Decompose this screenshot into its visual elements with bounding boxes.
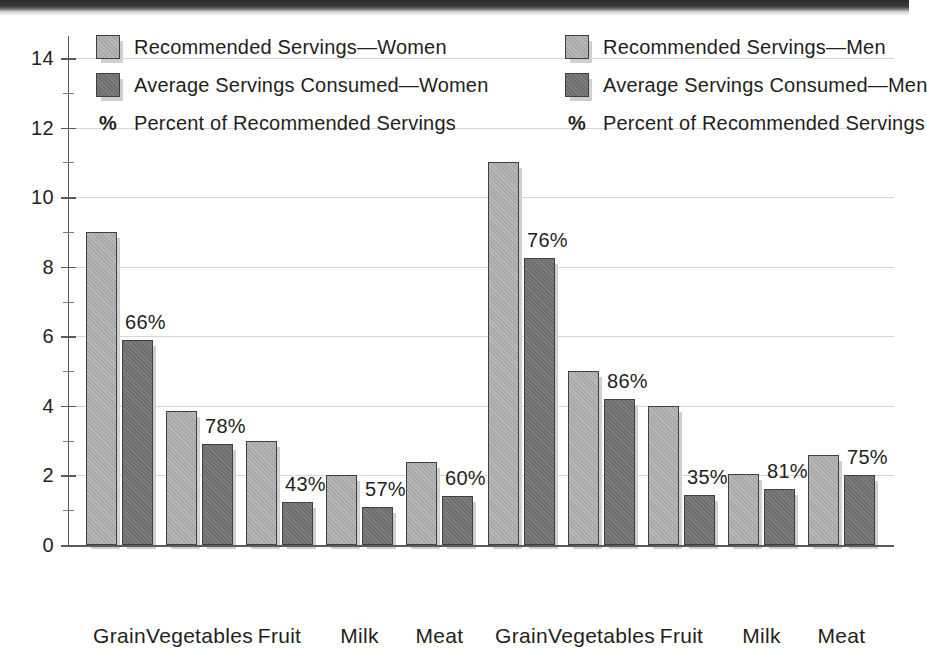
bar-men-fruit-consumed [684,495,715,545]
percent-symbol-icon: % [96,112,120,135]
percent-data-label: 66% [125,311,166,334]
legend-swatch-consumed-icon [565,73,589,97]
percent-data-label: 86% [607,370,648,393]
x-axis-category-label: Meat [818,624,866,648]
legend-label: Average Servings Consumed—Men [603,74,927,97]
legend-item-left-1: Recommended Servings—Women [96,28,489,66]
bar-women-vegetables-recommended [166,411,197,545]
y-axis-label: 8 [42,255,54,278]
x-axis-category-label: Vegetables [548,624,655,648]
x-axis-category-label: Meat [416,624,464,648]
bar-women-milk-recommended [326,475,357,545]
legend-label: Recommended Servings—Men [603,36,886,59]
x-axis-line [68,545,894,547]
y-axis-tick [61,267,76,269]
x-axis-category-label: Fruit [258,624,302,648]
legend-item-left-3: %Percent of Recommended Servings [96,104,489,142]
legend-label: Percent of Recommended Servings [134,112,456,135]
legend-item-right-2: Average Servings Consumed—Men [565,66,927,104]
bar-women-fruit-recommended [246,441,277,545]
legend-swatch-recommended-icon [565,35,589,59]
y-axis-tick [61,128,76,130]
legend-label: Recommended Servings—Women [134,36,447,59]
bar-women-fruit-consumed [282,502,313,545]
x-axis-category-label: Grain [495,624,548,648]
y-axis-minor-tick [63,510,74,511]
y-axis-minor-tick [63,232,74,233]
y-axis-tick [61,336,76,338]
y-axis-label: 10 [31,186,54,209]
percent-data-label: 81% [767,460,808,483]
y-axis-minor-tick [63,441,74,442]
legend-swatch-recommended-icon [96,35,120,59]
y-axis-minor-tick [63,162,74,163]
y-axis-minor-tick [63,302,74,303]
y-axis-minor-tick [63,371,74,372]
legend-label: Percent of Recommended Servings [603,112,925,135]
legend-men: Recommended Servings—MenAverage Servings… [565,28,927,142]
bar-men-vegetables-recommended [568,371,599,545]
bar-men-grain-recommended [488,162,519,545]
gridline [68,336,894,337]
y-axis-tick [61,58,76,60]
legend-swatch-consumed-icon [96,73,120,97]
bar-women-meat-recommended [406,462,437,545]
y-axis-tick [61,545,76,547]
bar-men-meat-consumed [844,475,875,545]
legend-item-right-1: Recommended Servings—Men [565,28,927,66]
y-axis-label: 6 [42,325,54,348]
percent-data-label: 57% [365,478,406,501]
percent-data-label: 35% [687,466,728,489]
bar-women-meat-consumed [442,496,473,545]
legend-item-right-3: %Percent of Recommended Servings [565,104,927,142]
percent-data-label: 78% [205,415,246,438]
percent-data-label: 76% [527,229,568,252]
y-axis-label: 12 [31,116,54,139]
x-axis-category-label: Milk [742,624,781,648]
bar-men-grain-consumed [524,258,555,545]
legend-label: Average Servings Consumed—Women [134,74,489,97]
bar-men-meat-recommended [808,455,839,545]
y-axis-label: 4 [42,394,54,417]
x-axis-category-label: Milk [340,624,379,648]
legend-women: Recommended Servings—WomenAverage Servin… [96,28,489,142]
bar-women-milk-consumed [362,507,393,545]
percent-data-label: 75% [847,446,888,469]
y-axis-tick [61,475,76,477]
bar-women-grain-consumed [122,340,153,545]
y-axis-label: 2 [42,464,54,487]
bar-men-milk-recommended [728,474,759,545]
y-axis-label: 14 [31,47,54,70]
x-axis-category-label: Grain [93,624,146,648]
bar-men-fruit-recommended [648,406,679,545]
y-axis-minor-tick [63,93,74,94]
y-axis-label: 0 [42,534,54,557]
bar-men-milk-consumed [764,489,795,545]
bar-men-vegetables-consumed [604,399,635,545]
gridline [68,197,894,198]
percent-symbol-icon: % [565,112,589,135]
percent-data-label: 43% [285,473,326,496]
x-axis-category-label: Fruit [660,624,704,648]
y-axis-tick [61,406,76,408]
gridline [68,406,894,407]
bar-women-vegetables-consumed [202,444,233,545]
bar-women-grain-recommended [86,232,117,545]
gridline [68,267,894,268]
y-axis-tick [61,197,76,199]
x-axis-category-label: Vegetables [146,624,253,648]
percent-data-label: 60% [445,467,486,490]
legend-item-left-2: Average Servings Consumed—Women [96,66,489,104]
